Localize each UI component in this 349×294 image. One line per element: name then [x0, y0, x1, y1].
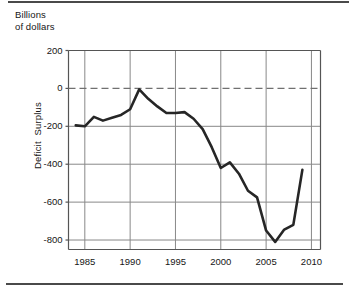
data-series-line	[76, 89, 303, 242]
y-tick-label: -600	[29, 196, 63, 207]
figure-bottom-rule	[6, 283, 343, 285]
plot-frame	[66, 51, 321, 250]
y-tick-label: -200	[29, 120, 63, 131]
y-tick-label: 0	[29, 82, 63, 93]
chart-figure: Billionsof dollars Deficit Surplus 2000-…	[0, 0, 349, 294]
x-tick-label: 2010	[291, 256, 331, 267]
x-tick-label: 1990	[110, 256, 150, 267]
y-tick-label: -800	[29, 234, 63, 245]
gridlines-group	[69, 51, 321, 250]
x-tick-label: 2000	[201, 256, 241, 267]
x-tick-label: 1995	[155, 256, 195, 267]
y-tick-label: 200	[29, 45, 63, 56]
y-tick-label: -400	[29, 158, 63, 169]
x-tick-label: 2005	[246, 256, 286, 267]
x-tick-label: 1985	[65, 256, 105, 267]
